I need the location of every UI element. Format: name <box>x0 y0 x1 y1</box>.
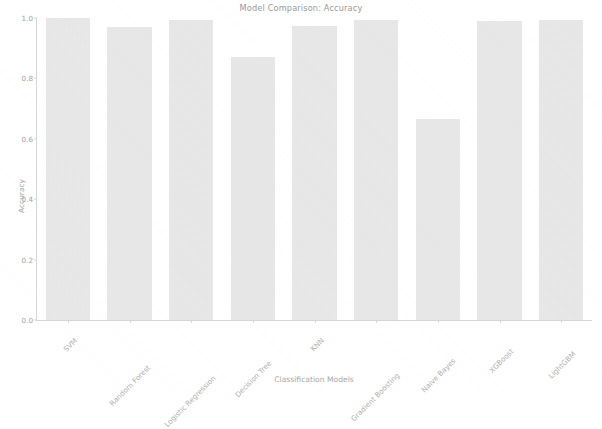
x-tick-label-text: XGBoost <box>487 347 515 375</box>
x-tick-label-text: SVM <box>61 336 78 353</box>
x-tick-label: KNN <box>319 325 336 342</box>
x-tick-label: Random Forest <box>145 325 190 370</box>
chart-title: Model Comparison: Accuracy <box>0 3 602 13</box>
x-tick-label: LightGBM <box>571 325 602 356</box>
plot-area: 0.00.20.40.60.81.0 SVMRandom ForestLogis… <box>36 18 592 321</box>
bar <box>416 119 460 320</box>
x-tick-label-text: KNN <box>308 336 325 353</box>
bar <box>231 57 275 320</box>
y-tick-label: 0.6 <box>22 134 37 143</box>
x-tick-mark <box>68 320 69 323</box>
x-tick-label-text: Random Forest <box>107 363 152 408</box>
bar <box>539 20 583 320</box>
x-tick-mark <box>315 320 316 323</box>
x-tick-mark <box>561 320 562 323</box>
y-tick-label: 0.2 <box>22 255 37 264</box>
x-tick-mark <box>253 320 254 323</box>
x-tick-mark <box>438 320 439 323</box>
x-tick-mark <box>500 320 501 323</box>
x-tick-mark <box>191 320 192 323</box>
y-tick-label: 0.8 <box>22 74 37 83</box>
bar <box>107 27 151 320</box>
bar <box>354 20 398 320</box>
x-tick-label: XGBoost <box>509 325 537 353</box>
y-tick-label: 0.0 <box>22 316 37 325</box>
y-tick-label: 1.0 <box>22 14 37 23</box>
bar <box>477 21 521 320</box>
bar <box>169 20 213 320</box>
bar <box>46 18 90 320</box>
x-tick-label: Decision Tree <box>267 325 307 365</box>
x-tick-mark <box>376 320 377 323</box>
y-tick-label: 0.4 <box>22 195 37 204</box>
x-axis-label: Classification Models <box>36 375 592 384</box>
bar <box>292 26 336 320</box>
x-tick-label: SVM <box>72 325 89 342</box>
x-tick-label: Naive Bayes <box>451 325 489 363</box>
x-tick-mark <box>130 320 131 323</box>
bar-series <box>37 18 592 320</box>
